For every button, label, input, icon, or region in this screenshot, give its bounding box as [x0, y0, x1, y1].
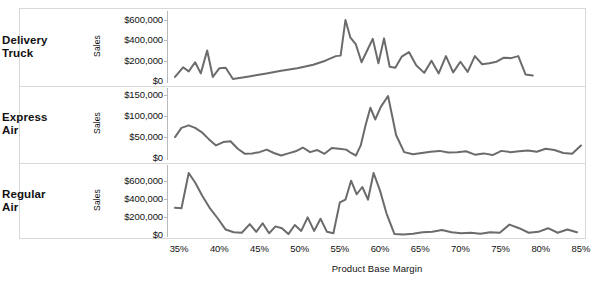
- y-axis-title: Sales: [92, 189, 102, 211]
- y-tick-label: $150,000: [124, 89, 163, 100]
- row-label-line: Truck: [2, 47, 90, 60]
- plot-area-regular-air: [167, 162, 585, 239]
- x-tick-label: 50%: [290, 243, 309, 254]
- y-tick-label: $600,000: [124, 175, 163, 186]
- row-label-line: Express: [2, 111, 90, 124]
- x-tick-label: 35%: [170, 243, 189, 254]
- row-label-line: Delivery: [2, 34, 90, 47]
- y-tick-label: $0: [153, 152, 163, 163]
- row-label-regular-air: RegularAir: [2, 188, 90, 214]
- y-tick-label: $400,000: [124, 34, 163, 45]
- y-axis-title: Sales: [92, 112, 102, 134]
- data-line: [175, 96, 581, 155]
- y-tick-label: $200,000: [124, 55, 163, 66]
- series-svg: [167, 162, 585, 239]
- x-tick-label: 40%: [210, 243, 229, 254]
- y-axis-title: Sales: [92, 35, 102, 57]
- data-line: [175, 173, 577, 235]
- x-tick-label: 65%: [411, 243, 430, 254]
- x-tick-label: 60%: [371, 243, 390, 254]
- y-tick-label: $600,000: [124, 14, 163, 25]
- row-label-delivery-truck: DeliveryTruck: [2, 34, 90, 60]
- series-svg: [167, 85, 585, 162]
- x-tick-label: 85%: [572, 243, 591, 254]
- y-tick-label: $100,000: [124, 110, 163, 121]
- row-label-express-air: ExpressAir: [2, 111, 90, 137]
- x-tick-label: 80%: [531, 243, 550, 254]
- data-line: [175, 20, 533, 79]
- row-label-line: Air: [2, 201, 90, 214]
- y-tick-label: $400,000: [124, 193, 163, 204]
- y-tick-label: $50,000: [129, 131, 163, 142]
- x-tick-label: 45%: [250, 243, 269, 254]
- y-tick-label: $0: [153, 229, 163, 240]
- x-tick-label: 70%: [451, 243, 470, 254]
- x-tick-label: 55%: [330, 243, 349, 254]
- y-tick-label: $0: [153, 75, 163, 86]
- y-tick-label: $200,000: [124, 211, 163, 222]
- plot-area-express-air: [167, 85, 585, 162]
- plot-area-delivery-truck: [167, 8, 585, 85]
- x-axis-title-label: Product Base Margin: [168, 263, 586, 274]
- chart-root: 35%40%45%50%55%60%65%70%75%80%85% Produc…: [0, 0, 607, 288]
- x-tick-label: 75%: [491, 243, 510, 254]
- x-axis-ticks: 35%40%45%50%55%60%65%70%75%80%85%: [0, 243, 607, 259]
- row-label-line: Regular: [2, 188, 90, 201]
- series-svg: [167, 8, 585, 85]
- row-label-line: Air: [2, 124, 90, 137]
